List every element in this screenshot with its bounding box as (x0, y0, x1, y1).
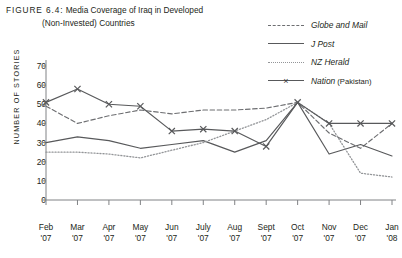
data-point-x-marker-icon (263, 143, 269, 149)
data-point-x-marker-icon (74, 86, 80, 92)
line-chart-plot (0, 0, 402, 258)
